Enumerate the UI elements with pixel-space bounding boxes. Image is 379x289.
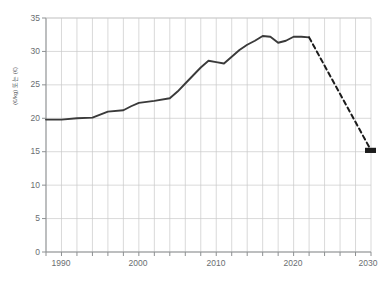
- series-endpoint-marker: [365, 148, 376, 153]
- plot-area: [0, 0, 379, 289]
- line-chart: (€/kg) 또는 (€) 35 30 25 20 15 10 5 0 1990…: [0, 0, 379, 289]
- series-line-historical: [46, 36, 309, 120]
